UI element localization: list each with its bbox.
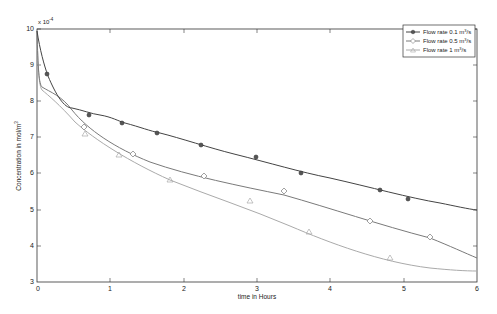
svg-text:4: 4 <box>30 242 34 249</box>
x-tick-labels: 0 1 2 3 4 5 6 <box>36 285 479 292</box>
svg-text:3: 3 <box>30 278 34 285</box>
svg-text:7: 7 <box>30 133 34 140</box>
legend: Flow rate 0.1 m3/s Flow rate 0.5 m3/s Fl… <box>403 25 475 57</box>
svg-text:5: 5 <box>30 206 34 213</box>
svg-text:6: 6 <box>475 285 479 292</box>
line-chart: 10 9 8 7 6 5 4 3 x 10-4 0 1 2 3 4 5 6 ti… <box>0 0 497 314</box>
svg-text:6: 6 <box>30 169 34 176</box>
svg-text:3: 3 <box>255 285 259 292</box>
y-axis-label: Concentration in mol/m3 <box>14 121 22 191</box>
svg-text:4: 4 <box>328 285 332 292</box>
svg-text:2: 2 <box>182 285 186 292</box>
svg-text:0: 0 <box>36 285 40 292</box>
x-axis-label: time in Hours <box>238 293 277 300</box>
svg-text:Flow rate 0.1 m3/s: Flow rate 0.1 m3/s <box>423 28 471 35</box>
svg-text:10: 10 <box>26 25 34 32</box>
svg-text:5: 5 <box>402 285 406 292</box>
y-tick-labels: 10 9 8 7 6 5 4 3 <box>26 25 34 285</box>
svg-text:Flow rate 0.5 m3/s: Flow rate 0.5 m3/s <box>423 37 471 44</box>
svg-text:1: 1 <box>108 285 112 292</box>
y-exponent-label: x 10-4 <box>38 17 54 25</box>
svg-text:8: 8 <box>30 97 34 104</box>
svg-text:9: 9 <box>30 61 34 68</box>
